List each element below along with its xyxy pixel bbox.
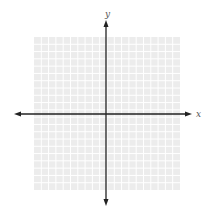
x-axis-arrow-left-icon bbox=[14, 112, 21, 117]
x-axis-label: x bbox=[196, 109, 201, 119]
x-axis-arrow-right-icon bbox=[185, 112, 192, 117]
coordinate-plane: x y bbox=[0, 0, 211, 217]
y-axis-arrow-up-icon bbox=[104, 20, 109, 27]
y-axis-label: y bbox=[104, 9, 111, 19]
y-axis-arrow-down-icon bbox=[104, 199, 109, 206]
